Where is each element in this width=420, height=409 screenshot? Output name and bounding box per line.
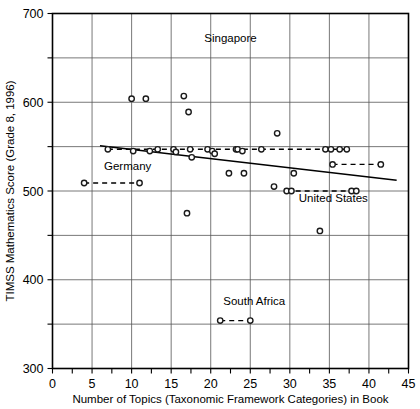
x-tick-label: 25 bbox=[243, 377, 257, 391]
data-point bbox=[147, 148, 152, 153]
data-point bbox=[291, 171, 296, 176]
data-point bbox=[187, 147, 192, 152]
y-tick-label: 300 bbox=[23, 362, 44, 376]
data-point bbox=[317, 228, 322, 233]
y-axis-title: TIMSS Mathematics Score (Grade 8, 1996) bbox=[4, 80, 16, 301]
annotation-singapore: Singapore bbox=[204, 32, 256, 44]
x-tick-label: 10 bbox=[125, 377, 139, 391]
data-point bbox=[248, 318, 253, 323]
data-point bbox=[155, 147, 160, 152]
x-tick-label: 20 bbox=[204, 377, 218, 391]
x-tick-label: 0 bbox=[49, 377, 56, 391]
data-point bbox=[130, 148, 135, 153]
data-point bbox=[218, 318, 223, 323]
data-point bbox=[137, 180, 142, 185]
data-point bbox=[330, 162, 335, 167]
data-point bbox=[184, 210, 189, 215]
y-tick-label: 400 bbox=[23, 273, 44, 287]
data-point bbox=[173, 149, 178, 154]
x-tick-label: 5 bbox=[89, 377, 96, 391]
data-point bbox=[212, 151, 217, 156]
data-point bbox=[259, 147, 264, 152]
annotation-united-states: United States bbox=[299, 192, 368, 204]
y-tick-label: 500 bbox=[23, 185, 44, 199]
x-tick-label: 40 bbox=[362, 377, 376, 391]
y-tick-label: 700 bbox=[23, 7, 44, 21]
data-point bbox=[186, 109, 191, 114]
data-point bbox=[129, 96, 134, 101]
data-point bbox=[271, 184, 276, 189]
chart-canvas: 051015202530354045300400500600700 Singap… bbox=[0, 0, 420, 409]
data-point bbox=[289, 188, 294, 193]
x-tick-label: 30 bbox=[283, 377, 297, 391]
data-point bbox=[241, 171, 246, 176]
x-tick-label: 15 bbox=[164, 377, 178, 391]
data-point bbox=[274, 131, 279, 136]
x-axis-title: Number of Topics (Taxonomic Framework Ca… bbox=[72, 393, 388, 405]
data-point bbox=[240, 148, 245, 153]
annotation-germany: Germany bbox=[104, 160, 152, 172]
data-point bbox=[81, 180, 86, 185]
x-tick-label: 45 bbox=[402, 377, 416, 391]
data-point bbox=[189, 155, 194, 160]
data-point bbox=[378, 162, 383, 167]
data-point bbox=[323, 147, 328, 152]
data-point bbox=[105, 147, 110, 152]
data-point bbox=[344, 147, 349, 152]
data-point bbox=[337, 147, 342, 152]
data-point bbox=[328, 147, 333, 152]
y-tick-label: 600 bbox=[23, 96, 44, 110]
x-tick-label: 35 bbox=[322, 377, 336, 391]
chart-background bbox=[0, 0, 420, 409]
data-point bbox=[143, 96, 148, 101]
scatter-chart-figure: 051015202530354045300400500600700 Singap… bbox=[0, 0, 420, 409]
data-point bbox=[226, 171, 231, 176]
annotation-south-africa: South Africa bbox=[223, 295, 286, 307]
data-point bbox=[181, 93, 186, 98]
